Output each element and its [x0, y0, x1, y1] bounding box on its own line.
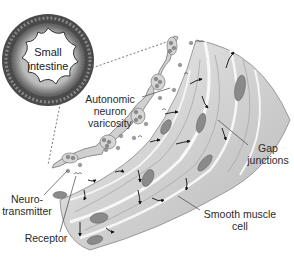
- label-autonomic-neuron-varicosity: Autonomic neuron varicosity: [70, 93, 150, 129]
- label-line: varicosity: [70, 117, 150, 129]
- label-line: transmitter: [0, 205, 54, 217]
- label-line: intestine: [18, 59, 78, 73]
- label-neurotransmitter: Neuro- transmitter: [0, 193, 54, 217]
- label-line: Receptor: [18, 232, 74, 244]
- label-small-intestine: Small intestine: [18, 45, 78, 73]
- label-line: Gap: [244, 142, 292, 154]
- label-receptor: Receptor: [18, 232, 74, 244]
- label-gap-junctions: Gap junctions: [244, 142, 292, 166]
- label-line: neuron: [70, 105, 150, 117]
- label-line: junctions: [244, 154, 292, 166]
- leader-neuro: [44, 170, 68, 195]
- label-line: Autonomic: [70, 93, 150, 105]
- label-line: cell: [194, 220, 286, 232]
- label-line: Small: [18, 45, 78, 59]
- label-line: Smooth muscle: [194, 208, 286, 220]
- label-smooth-muscle-cell: Smooth muscle cell: [194, 208, 286, 232]
- label-line: Neuro-: [0, 193, 54, 205]
- diagram-canvas: Small intestine Autonomic neuron varicos…: [0, 0, 294, 260]
